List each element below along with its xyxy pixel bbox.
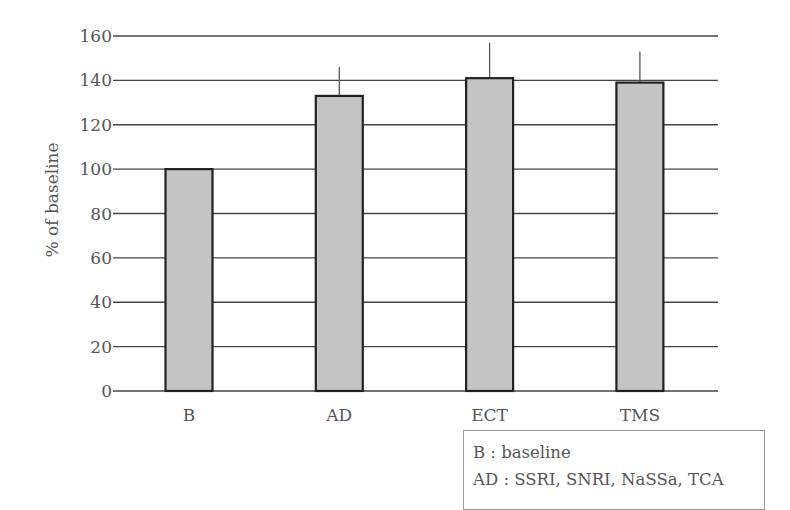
x-category-label: B: [183, 405, 196, 425]
legend-entry: AD : SSRI, SNRI, NaSSa, TCA: [473, 466, 764, 493]
bar-ad: [316, 96, 363, 391]
bar-tms: [616, 83, 663, 391]
y-axis-title: % of baseline: [42, 142, 62, 257]
bar-b: [166, 169, 213, 391]
x-category-label: ECT: [471, 405, 508, 425]
y-tick-label: 140: [80, 70, 112, 90]
legend-entry: B : baseline: [473, 439, 764, 466]
y-tick-label: 120: [80, 115, 112, 135]
bar-ect: [466, 78, 513, 391]
y-tick-label: 80: [90, 204, 112, 224]
y-tick-label: 160: [80, 26, 112, 46]
y-tick-label: 20: [90, 337, 112, 357]
x-category-label: TMS: [620, 405, 660, 425]
x-category-label: AD: [325, 405, 352, 425]
legend: B : baseline AD : SSRI, SNRI, NaSSa, TCA: [463, 430, 765, 510]
y-tick-label: 100: [80, 159, 112, 179]
y-tick-label: 60: [90, 248, 112, 268]
x-category-labels: BADECTTMS: [183, 405, 660, 425]
y-tick-label: 0: [101, 381, 112, 401]
y-tick-labels: 020406080100120140160: [80, 26, 112, 401]
y-tick-label: 40: [90, 292, 112, 312]
